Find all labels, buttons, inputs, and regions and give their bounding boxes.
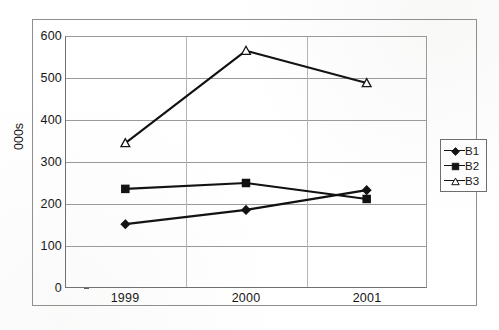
series-line-b3: [125, 51, 366, 143]
series-layer: [0, 0, 499, 330]
legend-label: B2: [465, 160, 479, 172]
legend-item-b1: B1: [443, 143, 484, 158]
legend-label: B3: [465, 175, 479, 187]
legend-item-b3: B3: [443, 173, 484, 188]
square-glyph: [451, 162, 460, 171]
legend-item-b2: B2: [443, 158, 484, 173]
data-point-square: [363, 195, 370, 202]
legend-label: B1: [465, 145, 479, 157]
triangle-marker-icon: [444, 174, 465, 187]
square-marker-icon: [444, 159, 465, 172]
series-lines: [125, 51, 366, 224]
data-point-triangle: [242, 46, 251, 54]
chart-legend: B1 B2 B3: [440, 139, 487, 192]
data-point-diamond: [121, 220, 129, 228]
diamond-marker-icon: [444, 144, 465, 157]
line-chart-figure: 600 500 400 300 200 100 0 000s 1999 2000…: [0, 0, 499, 330]
data-point-diamond: [363, 186, 371, 194]
data-point-square: [242, 179, 249, 186]
data-point-square: [122, 185, 129, 192]
data-point-diamond: [242, 206, 250, 214]
diamond-glyph: [451, 147, 460, 156]
triangle-glyph: [451, 177, 460, 186]
